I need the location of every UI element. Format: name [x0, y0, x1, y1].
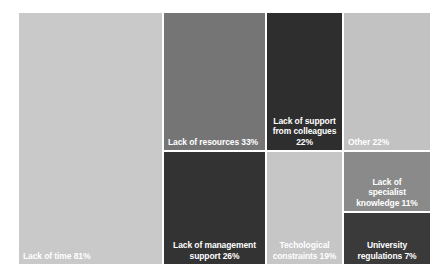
treemap-tile-lack-of-support-from-colleagues[interactable]: Lack of support from colleagues 22% — [267, 13, 342, 150]
treemap-plot-area: Lack of time 81% Lack of resources 33% L… — [19, 13, 430, 264]
treemap-tile-label: Lack of resources 33% — [164, 137, 265, 148]
treemap-tile-techological-constraints[interactable]: Techological constraints 19% — [267, 152, 342, 264]
treemap-tile-label: University regulations 7% — [344, 240, 430, 261]
treemap-tile-lack-of-time[interactable]: Lack of time 81% — [19, 13, 162, 264]
treemap-tile-university-regulations[interactable]: University regulations 7% — [344, 213, 430, 264]
treemap-figure: Lack of time 81% Lack of resources 33% L… — [0, 0, 430, 274]
treemap-tile-label: Lack of support from colleagues 22% — [267, 116, 342, 148]
treemap-tile-lack-of-specialist-knowledge[interactable]: Lack of specialist knowledge 11% — [344, 152, 430, 211]
treemap-tile-lack-of-resources[interactable]: Lack of resources 33% — [164, 13, 265, 150]
treemap-tile-label: Lack of management support 26% — [164, 240, 265, 261]
treemap-tile-label: Techological constraints 19% — [267, 240, 342, 261]
treemap-tile-label: Lack of time 81% — [19, 251, 162, 262]
treemap-tile-other[interactable]: Other 22% — [344, 13, 430, 150]
treemap-tile-lack-of-management-support[interactable]: Lack of management support 26% — [164, 152, 265, 264]
treemap-tile-label: Other 22% — [344, 137, 430, 148]
treemap-tile-label: Lack of specialist knowledge 11% — [344, 177, 430, 209]
